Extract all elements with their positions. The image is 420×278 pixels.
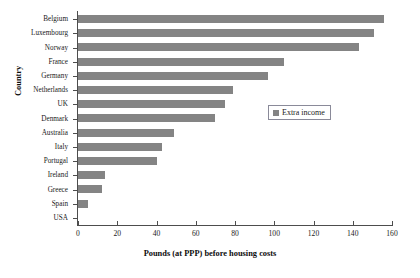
bar-chart: Country BelgiumLuxembourgNorwayFranceGer… bbox=[0, 0, 420, 278]
bar-row bbox=[78, 182, 102, 196]
y-axis-tick-label: Belgium bbox=[0, 15, 73, 23]
x-axis-tick-mark bbox=[235, 221, 236, 226]
x-axis-tick-label: 20 bbox=[113, 229, 121, 238]
y-axis-tick-label: Germany bbox=[0, 72, 73, 80]
bar bbox=[78, 129, 174, 137]
bar bbox=[78, 29, 374, 37]
x-axis-tick-mark bbox=[392, 221, 393, 226]
y-axis-tick-label: Denmark bbox=[0, 115, 73, 123]
x-axis-tick-label: 120 bbox=[308, 229, 319, 238]
bar-row bbox=[78, 69, 268, 83]
bar bbox=[78, 143, 162, 151]
plot-area bbox=[78, 12, 392, 225]
bar bbox=[78, 43, 359, 51]
x-axis-tick-mark bbox=[274, 221, 275, 226]
y-axis-tick-label: Portugal bbox=[0, 157, 73, 165]
bar bbox=[78, 100, 225, 108]
bar-row bbox=[78, 140, 162, 154]
y-axis-tick-label: Norway bbox=[0, 44, 73, 52]
y-axis-tick-labels: BelgiumLuxembourgNorwayFranceGermanyNeth… bbox=[0, 12, 73, 225]
y-axis-tick-label: Luxembourg bbox=[0, 29, 73, 37]
x-axis-tick-mark bbox=[314, 221, 315, 226]
bar-row bbox=[78, 26, 374, 40]
x-axis-tick-mark bbox=[353, 221, 354, 226]
x-axis-tick-label: 80 bbox=[231, 229, 239, 238]
chart-legend: Extra income bbox=[268, 105, 331, 120]
bar bbox=[78, 114, 215, 122]
x-axis-tick-mark bbox=[78, 221, 79, 226]
x-axis-title: Pounds (at PPP) before housing costs bbox=[0, 249, 420, 258]
x-axis-tick-label: 0 bbox=[76, 229, 80, 238]
bar-row bbox=[78, 83, 233, 97]
bar bbox=[78, 72, 268, 80]
bar-row bbox=[78, 197, 88, 211]
bar bbox=[78, 58, 284, 66]
x-axis-tick-label: 140 bbox=[347, 229, 358, 238]
y-axis-tick-label: France bbox=[0, 58, 73, 66]
x-axis-tick-label: 60 bbox=[192, 229, 200, 238]
y-axis-tick-label: Italy bbox=[0, 143, 73, 151]
x-axis-tick-mark bbox=[157, 221, 158, 226]
y-axis-tick-label: Spain bbox=[0, 200, 73, 208]
bar bbox=[78, 200, 88, 208]
y-axis-tick-label: USA bbox=[0, 214, 73, 222]
bar-row bbox=[78, 168, 105, 182]
x-axis-tick-mark bbox=[196, 221, 197, 226]
y-axis-tick-label: Ireland bbox=[0, 171, 73, 179]
x-axis-tick-label: 100 bbox=[269, 229, 280, 238]
y-axis-tick-label: Australia bbox=[0, 129, 73, 137]
x-axis-tick-mark bbox=[117, 221, 118, 226]
y-axis-tick-label: UK bbox=[0, 100, 73, 108]
bar bbox=[78, 185, 102, 193]
legend-label: Extra income bbox=[282, 108, 325, 117]
bar bbox=[78, 171, 105, 179]
bar-row bbox=[78, 97, 225, 111]
bar bbox=[78, 157, 157, 165]
bar-row bbox=[78, 40, 359, 54]
bar-row bbox=[78, 154, 157, 168]
bar-row bbox=[78, 55, 284, 69]
bar-row bbox=[78, 111, 215, 125]
y-axis-tick-label: Netherlands bbox=[0, 86, 73, 94]
bar bbox=[78, 86, 233, 94]
bar bbox=[78, 15, 384, 23]
bar-row bbox=[78, 126, 174, 140]
x-axis-tick-label: 40 bbox=[153, 229, 161, 238]
y-axis-tick-label: Greece bbox=[0, 186, 73, 194]
bar-row bbox=[78, 12, 384, 26]
x-axis-tick-label: 160 bbox=[386, 229, 397, 238]
legend-swatch-icon bbox=[273, 110, 279, 116]
